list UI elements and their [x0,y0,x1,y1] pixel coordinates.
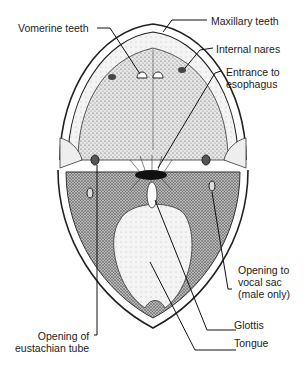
label-maxillary-teeth: Maxillary teeth [211,15,279,27]
internal-naris-right [178,67,186,73]
label-entrance-esophagus: Entrance to esophagus [226,66,280,90]
label-opening-eustachian: Opening of eustachian tube [15,330,89,354]
internal-naris-left [108,74,116,80]
label-opening-vocal-sac: Opening to vocal sac (male only) [238,264,290,300]
glottis-shape [147,182,157,208]
eustachian-right [202,155,210,165]
vomerine-tooth-left [137,72,147,78]
vocal-sac-right [209,181,215,191]
label-internal-nares: Internal nares [216,43,280,55]
eustachian-left [91,155,99,165]
vocal-sac-left [87,188,93,198]
label-glottis: Glottis [234,319,264,331]
label-vomerine-teeth: Vomerine teeth [18,22,89,34]
vomerine-tooth-right [153,72,163,78]
label-tongue: Tongue [234,337,268,349]
